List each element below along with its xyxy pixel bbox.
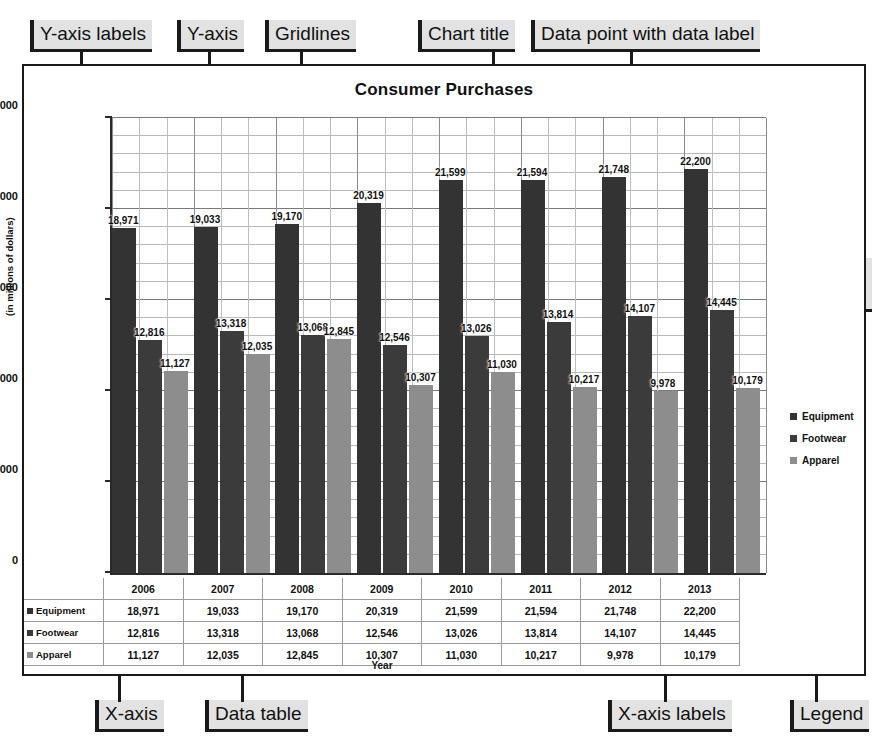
bar-group: 19,03313,31812,035 bbox=[194, 118, 276, 573]
bar-apparel[interactable] bbox=[409, 385, 433, 573]
data-label: 13,814 bbox=[543, 309, 574, 320]
data-label: 21,748 bbox=[598, 164, 629, 175]
bar-equipment[interactable] bbox=[275, 224, 299, 573]
table-row-header: Footwear bbox=[24, 622, 104, 644]
table-cell: 12,816 bbox=[104, 622, 184, 644]
callout-x-axis: X-axis bbox=[95, 700, 164, 732]
legend-item-label: Equipment bbox=[802, 411, 854, 422]
data-label: 13,026 bbox=[461, 323, 492, 334]
table-row-label: Apparel bbox=[36, 649, 71, 660]
table-swatch-icon bbox=[27, 608, 33, 614]
bar-equipment[interactable] bbox=[194, 227, 218, 573]
legend-item-label: Apparel bbox=[802, 455, 839, 466]
callout-data-point: Data point with data label bbox=[531, 20, 760, 52]
data-label: 12,035 bbox=[242, 341, 273, 352]
table-cell: 13,026 bbox=[422, 622, 502, 644]
bar-apparel[interactable] bbox=[736, 388, 760, 573]
bar-footwear[interactable] bbox=[547, 322, 571, 573]
bar-footwear[interactable] bbox=[220, 331, 244, 573]
data-label: 12,546 bbox=[379, 332, 410, 343]
table-cell: 20,319 bbox=[342, 600, 422, 622]
bar-footwear[interactable] bbox=[710, 310, 734, 573]
bar-apparel[interactable] bbox=[573, 387, 597, 573]
bar-group: 20,31912,54610,307 bbox=[357, 118, 439, 573]
bar-apparel[interactable] bbox=[246, 354, 270, 573]
callout-legend: Legend bbox=[790, 700, 869, 732]
bar-equipment[interactable] bbox=[439, 180, 463, 573]
x-axis-label: 2012 bbox=[581, 578, 661, 600]
legend: EquipmentFootwearApparel bbox=[790, 411, 854, 477]
bar-footwear[interactable] bbox=[628, 316, 652, 573]
table-cell: 21,748 bbox=[581, 600, 661, 622]
bar-apparel[interactable] bbox=[491, 372, 515, 573]
x-axis-label: 2010 bbox=[422, 578, 502, 600]
bar-equipment[interactable] bbox=[602, 177, 626, 573]
data-label: 10,179 bbox=[732, 375, 763, 386]
x-axis-label: 2006 bbox=[104, 578, 184, 600]
bar-footwear[interactable] bbox=[301, 335, 325, 573]
bar-group: 21,74814,1079,978 bbox=[603, 118, 685, 573]
bar-apparel[interactable] bbox=[327, 339, 351, 573]
bar-apparel[interactable] bbox=[654, 391, 678, 573]
bar-equipment[interactable] bbox=[521, 180, 545, 573]
gridline-vertical bbox=[766, 118, 767, 573]
y-axis-tick bbox=[105, 207, 112, 209]
table-cell: 14,445 bbox=[660, 622, 740, 644]
legend-swatch-icon bbox=[790, 413, 797, 420]
x-axis-label: 2008 bbox=[263, 578, 343, 600]
bar-footwear[interactable] bbox=[465, 336, 489, 573]
y-axis-label: 15,000 bbox=[0, 281, 18, 293]
data-label: 21,594 bbox=[517, 167, 548, 178]
callout-y-axis: Y-axis bbox=[177, 20, 244, 52]
bar-footwear[interactable] bbox=[138, 340, 162, 573]
bar-footwear[interactable] bbox=[383, 345, 407, 573]
bar-group: 18,97112,81611,127 bbox=[112, 118, 194, 573]
data-label: 10,307 bbox=[405, 372, 436, 383]
y-axis-label: 10,000 bbox=[0, 372, 18, 384]
bar-equipment[interactable] bbox=[357, 203, 381, 573]
table-cell: 19,170 bbox=[263, 600, 343, 622]
bar-group: 19,17013,06812,845 bbox=[276, 118, 358, 573]
bar-group: 21,59913,02611,030 bbox=[439, 118, 521, 573]
y-axis-label: 25,000 bbox=[0, 99, 18, 111]
table-cell: 13,068 bbox=[263, 622, 343, 644]
table-cell: 21,599 bbox=[422, 600, 502, 622]
plot-area: 05,00010,00015,00020,00025,000 18,97112,… bbox=[110, 118, 766, 575]
x-axis-label: 2009 bbox=[342, 578, 422, 600]
callout-gridlines: Gridlines bbox=[265, 20, 356, 52]
y-axis-title: (in millions of dollars) bbox=[4, 217, 15, 316]
bar-equipment[interactable] bbox=[112, 228, 136, 573]
callout-chart-title: Chart title bbox=[418, 20, 515, 52]
table-row: Equipment18,97119,03319,17020,31921,5992… bbox=[24, 600, 740, 622]
legend-item[interactable]: Footwear bbox=[790, 433, 854, 444]
data-label: 20,319 bbox=[353, 190, 384, 201]
table-cell: 14,107 bbox=[581, 622, 661, 644]
data-label: 12,845 bbox=[323, 326, 354, 337]
table-row: Footwear12,81613,31813,06812,54613,02613… bbox=[24, 622, 740, 644]
bar-apparel[interactable] bbox=[164, 371, 188, 574]
legend-item[interactable]: Apparel bbox=[790, 455, 854, 466]
table-cell: 21,594 bbox=[501, 600, 581, 622]
y-axis-label: 0 bbox=[0, 554, 18, 566]
chart-title: Consumer Purchases bbox=[24, 80, 864, 100]
legend-item[interactable]: Equipment bbox=[790, 411, 854, 422]
data-table: 20062007200820092010201120122013Equipmen… bbox=[24, 578, 740, 666]
data-label: 13,318 bbox=[216, 318, 247, 329]
table-row-label: Footwear bbox=[36, 627, 78, 638]
x-axis-label: 2007 bbox=[183, 578, 263, 600]
table-row-header: Equipment bbox=[24, 600, 104, 622]
table-swatch-icon bbox=[27, 652, 33, 658]
table-corner-cell bbox=[24, 578, 104, 600]
callout-x-axis-labels: X-axis labels bbox=[608, 700, 732, 732]
table-row-label: Equipment bbox=[36, 605, 85, 616]
bar-equipment[interactable] bbox=[684, 169, 708, 573]
table-cell: 12,546 bbox=[342, 622, 422, 644]
data-label: 12,816 bbox=[134, 327, 165, 338]
x-axis-label: 2013 bbox=[660, 578, 740, 600]
table-header-row: 20062007200820092010201120122013 bbox=[24, 578, 740, 600]
legend-swatch-icon bbox=[790, 457, 797, 464]
y-axis-label: 20,000 bbox=[0, 190, 18, 202]
annotated-chart-diagram: Y-axis labels Y-axis Gridlines Chart tit… bbox=[0, 0, 888, 746]
callout-data-table: Data table bbox=[205, 700, 308, 732]
data-label: 14,445 bbox=[706, 297, 737, 308]
